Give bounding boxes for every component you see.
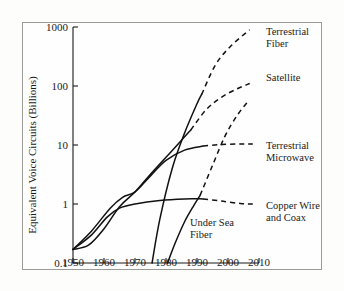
series-label-terrestrial-microwave-line2: Microwave (266, 152, 314, 163)
series-label-under-sea-fiber-line1: Under Sea (190, 217, 234, 228)
y-axis-title: Equivalent Voice Circuits (Billions) (26, 76, 39, 234)
y-tick-label-1: 1 (63, 198, 69, 210)
series-curve-dashed-under-sea-fiber (200, 101, 248, 195)
y-tick-label-100: 100 (52, 80, 69, 92)
series-curve-dashed-terrestrial-fiber (202, 30, 250, 95)
figure-container: Equivalent Voice Circuits (Billions) 100… (0, 0, 344, 291)
series-label-terrestrial-fiber-line2: Fiber (266, 38, 289, 49)
series-label-terrestrial-microwave-line1: Terrestrial (266, 140, 309, 151)
series-label-satellite: Satellite (266, 72, 301, 83)
series-layer (73, 30, 253, 263)
series-label-terrestrial-fiber-line1: Terrestrial (266, 26, 309, 37)
series-label-under-sea-fiber-line2: Fiber (190, 229, 213, 240)
series-curve-dashed-satellite (191, 84, 250, 130)
series-curve-dashed-copper-wire-and-coax (203, 199, 253, 204)
series-label-copper-wire-line1: Copper Wire (266, 200, 320, 211)
y-tick-label-1000: 1000 (46, 23, 69, 33)
chart-frame: Equivalent Voice Circuits (Billions) 100… (22, 22, 322, 270)
line-chart: Equivalent Voice Circuits (Billions) 100… (23, 23, 321, 269)
series-label-copper-wire-line2: and Coax (266, 212, 307, 223)
y-tick-label-10: 10 (57, 139, 69, 151)
series-curve-dashed-terrestrial-microwave (203, 144, 253, 146)
